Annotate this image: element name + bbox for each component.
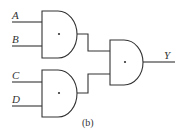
and-dot-icon bbox=[58, 92, 60, 94]
input-label-a: A bbox=[11, 9, 19, 21]
wire-gate2-to-gate3 bbox=[77, 74, 110, 93]
input-label-b: B bbox=[12, 33, 19, 45]
and-dot-icon bbox=[58, 33, 60, 35]
figure-caption: (b) bbox=[82, 117, 94, 129]
input-label-c: C bbox=[12, 69, 20, 81]
and-gate-3 bbox=[110, 40, 143, 85]
input-label-d: D bbox=[11, 93, 20, 105]
output-label-y: Y bbox=[164, 49, 172, 61]
wire-gate1-to-gate3 bbox=[77, 34, 110, 51]
circuit-svg: A B C D Y (b) bbox=[0, 0, 186, 131]
logic-circuit-diagram: A B C D Y (b) bbox=[0, 0, 186, 131]
and-dot-icon bbox=[124, 61, 126, 63]
